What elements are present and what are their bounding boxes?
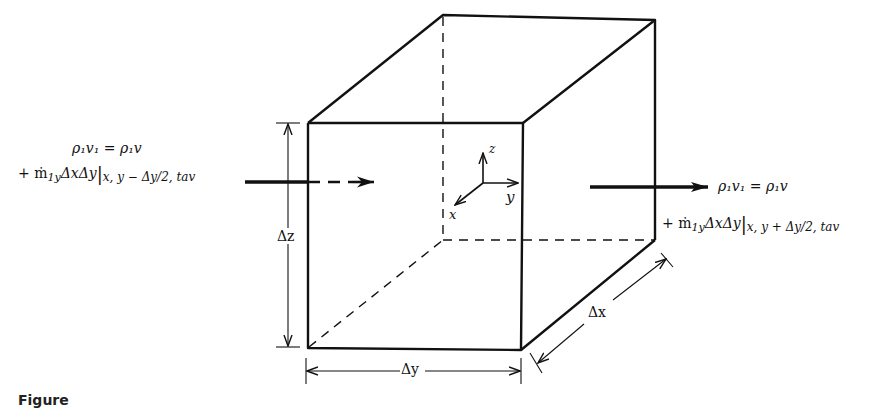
- inflow-density-velocity: ρ₁v₁ = ρ₁v: [72, 140, 142, 156]
- axis-label-y: y: [506, 188, 514, 206]
- axis-label-z: z: [489, 142, 495, 156]
- figure-caption: Figure: [18, 392, 69, 408]
- outflow-density-velocity: ρ₁v₁ = ρ₁v: [718, 178, 788, 194]
- dimension-label-dx: Δx: [588, 304, 606, 320]
- inflow-mass-term: + ṁ: [18, 165, 47, 181]
- outflow-mass-term: + ṁ: [662, 215, 691, 231]
- inflow-area-term: ΔxΔy: [61, 165, 97, 181]
- axis-label-x: x: [449, 207, 456, 222]
- inflow-subscript: 1y: [47, 171, 60, 184]
- inflow-label-line1: ρ₁v₁ = ρ₁v: [72, 140, 142, 156]
- dimension-label-dy: Δy: [401, 361, 419, 377]
- outflow-subscript: 1y: [691, 221, 704, 234]
- inflow-evaluation-point: x, y − Δy/2, tav: [103, 170, 195, 184]
- inflow-label-line2: + ṁ1yΔxΔy|x, y − Δy/2, tav: [18, 163, 195, 184]
- dimension-label-dz: Δz: [277, 228, 295, 244]
- outflow-label-line1: ρ₁v₁ = ρ₁v: [718, 178, 788, 194]
- outflow-evaluation-point: x, y + Δy/2, tav: [747, 220, 839, 234]
- outflow-area-term: ΔxΔy: [705, 215, 741, 231]
- outflow-label-line2: + ṁ1yΔxΔy|x, y + Δy/2, tav: [662, 213, 839, 234]
